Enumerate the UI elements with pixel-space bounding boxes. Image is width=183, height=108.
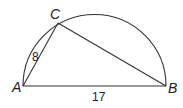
point-b-label: B	[168, 80, 177, 96]
segment-ab-length: 17	[92, 90, 106, 104]
point-a-label: A	[11, 79, 21, 95]
segment-ac-length: 8	[32, 50, 39, 64]
semicircle-arc	[23, 14, 166, 86]
geometry-diagram: A B C 8 17	[0, 0, 183, 108]
segment-cb	[58, 23, 166, 86]
segment-ac	[23, 23, 58, 86]
point-c-label: C	[50, 6, 61, 22]
